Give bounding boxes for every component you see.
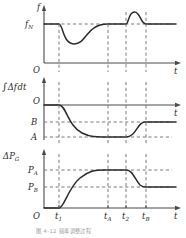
figure-container: f fN O t ∫Δfdt O B A t xyxy=(0,0,186,238)
panel3-x-axis-label: t xyxy=(174,211,178,221)
panel1-y-axis-label: f xyxy=(36,2,42,12)
panel2-origin-label: O xyxy=(33,96,40,106)
panel3-ytick-PA: PA xyxy=(27,165,38,176)
panel2-curve xyxy=(44,105,176,137)
panel-delta-power: ΔPG PA PB O t t1 tA t2 tB xyxy=(2,149,181,222)
panel-integral-delta-f: ∫Δfdt O B A t xyxy=(2,77,181,144)
panel3-origin-label: O xyxy=(33,211,40,221)
panel3-x-arrow xyxy=(175,206,181,210)
panel3-ytick-PB: PB xyxy=(27,182,38,193)
panel2-x-axis-label: t xyxy=(174,108,178,118)
panel1-curve xyxy=(44,12,176,44)
panel3-y-arrow xyxy=(42,149,46,155)
panel3-curve xyxy=(44,170,176,208)
xtick-label-t1: t1 xyxy=(55,211,62,222)
panel1-x-arrow xyxy=(175,61,181,65)
panel1-origin-label: O xyxy=(33,65,40,75)
xtick-label-tB: tB xyxy=(142,211,150,222)
panel2-ytick-A: A xyxy=(30,132,37,142)
panel2-y-axis-label: ∫Δfdt xyxy=(2,81,27,92)
panel2-y-arrow xyxy=(42,77,46,83)
panel2-ytick-B: B xyxy=(30,117,37,127)
figure-caption: 图 4-12 频率调整过程 xyxy=(36,227,91,235)
panel1-y-arrow xyxy=(42,5,46,11)
panel1-x-axis-label: t xyxy=(174,66,178,76)
panel3-y-axis-label: ΔPG xyxy=(2,151,20,162)
panel1-ytick-fn: fN xyxy=(24,19,34,30)
panel-frequency: f fN O t xyxy=(24,2,181,76)
frequency-adjustment-figure: f fN O t ∫Δfdt O B A t xyxy=(0,0,186,238)
panel2-x-arrow xyxy=(175,103,181,107)
xtick-label-t2: t2 xyxy=(122,211,129,222)
xtick-label-tA: tA xyxy=(104,211,111,222)
